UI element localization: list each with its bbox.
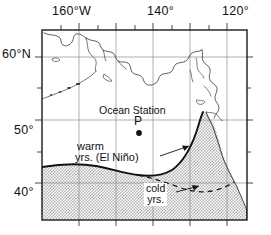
axis-top-ticks [61,23,227,30]
map-figure: 160°W 140° 120° 60°N 50° 40° Ocean Stati… [0,0,271,235]
axis-label-lat-60n: 60°N [2,47,31,61]
warm-years-label-line2: yrs. (El Niño) [75,152,139,164]
ocean-station-p-marker [136,130,142,136]
axis-left-ticks [35,57,42,183]
ocean-station-label: Ocean Station [99,105,166,117]
axis-label-lon-120: 120° [222,4,249,18]
cold-years-label-line2: yrs. [146,194,165,205]
axis-label-lat-40: 40° [14,185,34,199]
axis-label-lon-140: 140° [147,4,174,18]
axis-label-lat-50: 50° [14,123,34,137]
cold-years-label: cold yrs. [144,183,167,206]
axis-label-lon-160w: 160°W [52,4,91,18]
ocean-station-code-label: P [134,116,142,128]
axis-bottom-ticks [79,220,227,226]
axis-right-ticks [247,57,253,183]
